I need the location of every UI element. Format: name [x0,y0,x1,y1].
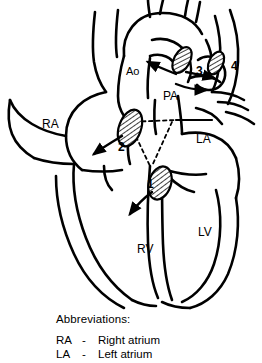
abbreviation-value: Right atrium [98,333,262,347]
label-ra: RA [42,118,59,130]
left-ventricle-wall [162,190,238,308]
right-ventricle-wall [56,164,156,308]
abbreviations-legend: Abbreviations: RA - Right atrium LA - Le… [56,312,262,361]
marker-2: 2 [118,141,125,153]
marker-3: 3 [196,65,203,77]
abbreviation-key: RA [56,333,82,347]
label-rv: RV [137,243,153,255]
abbreviation-value: Left atrium [98,347,262,361]
abbreviation-key: LA [56,347,82,361]
figure-root: RA LA RV LV Ao PA 1 2 3 4 Abbreviations:… [0,0,262,363]
left-atrium-wall [182,108,239,198]
label-pa: PA [163,90,178,102]
label-la: LA [196,133,211,145]
marker-4: 4 [231,60,238,72]
legend-title: Abbreviations: [56,312,262,326]
abbreviation-dash: - [82,333,98,347]
abbreviation-row: LA - Left atrium [56,347,262,361]
right-atrium-wall [9,92,106,170]
abbreviation-dash: - [82,347,98,361]
heart-diagram [0,0,262,310]
abbreviation-row: RA - Right atrium [56,333,262,347]
label-ao: Ao [126,65,139,77]
marker-1: 1 [147,178,154,190]
arch-branch-vessels [148,0,200,22]
superior-vena-cava [93,10,118,92]
label-lv: LV [198,226,212,238]
tricuspid-chordae [82,166,122,190]
